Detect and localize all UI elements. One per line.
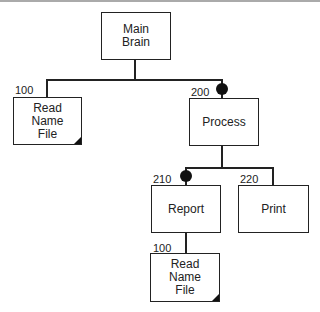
connector <box>46 79 223 81</box>
connector <box>185 167 273 169</box>
data-flag-icon <box>180 170 192 182</box>
connector <box>221 146 223 168</box>
node-label: Report <box>168 203 204 216</box>
top-border <box>0 0 320 2</box>
connector <box>134 60 136 80</box>
node-report[interactable]: Report <box>151 185 221 233</box>
node-label: Read <box>31 102 63 115</box>
connector <box>272 167 274 185</box>
library-module-corner-icon <box>74 137 81 144</box>
node-read-name-file[interactable]: ReadNameFile <box>13 97 82 145</box>
node-label: Brain <box>122 36 150 49</box>
node-number: 220 <box>240 174 258 185</box>
data-flag-icon <box>216 83 228 95</box>
node-number: 210 <box>153 174 171 185</box>
node-label: Name <box>31 115 63 128</box>
node-number: 100 <box>15 85 33 96</box>
connector <box>46 79 48 97</box>
node-print[interactable]: Print <box>238 185 309 233</box>
library-module-corner-icon <box>212 294 219 301</box>
node-main-brain[interactable]: MainBrain <box>101 12 171 60</box>
connector <box>185 233 187 253</box>
node-label: Process <box>202 116 245 129</box>
node-label: File <box>169 284 201 297</box>
node-process[interactable]: Process <box>189 98 259 146</box>
node-label: File <box>31 128 63 141</box>
node-number: 200 <box>191 87 209 98</box>
node-read-name-file[interactable]: ReadNameFile <box>150 253 220 302</box>
node-label: Print <box>261 203 286 216</box>
